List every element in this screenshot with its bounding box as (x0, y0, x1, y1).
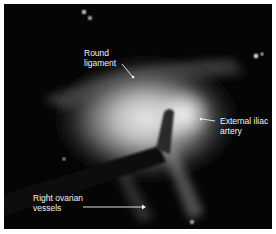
label-line: External iliac (220, 116, 268, 126)
label-line: Round (84, 48, 116, 58)
label-round-ligament: Round ligament (84, 48, 116, 68)
label-line: vessels (33, 203, 83, 213)
label-line: Right ovarian (33, 193, 83, 203)
label-external-iliac-artery: External iliac artery (220, 116, 268, 136)
label-right-ovarian-vessels: Right ovarian vessels (33, 193, 83, 213)
photo-frame: Round ligament External iliac artery Rig… (4, 4, 272, 229)
label-line: ligament (84, 58, 116, 68)
label-line: artery (220, 126, 268, 136)
